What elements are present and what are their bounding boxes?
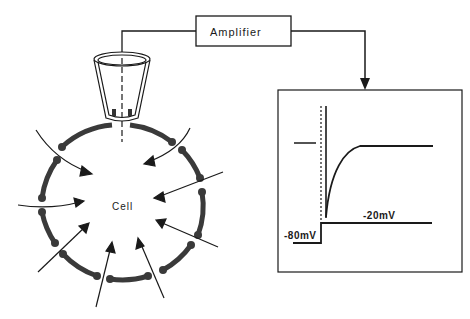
amplifier-label: Amplifier [210, 26, 262, 38]
step-voltage-label: -20mV [363, 210, 396, 221]
holding-voltage-label: -80mV [284, 230, 317, 241]
cell-label: Cell [112, 201, 133, 212]
patch-clamp-diagram [0, 0, 470, 319]
trace-panel [278, 90, 462, 272]
output-wire [291, 31, 365, 80]
arrow-down-icon [360, 78, 370, 90]
